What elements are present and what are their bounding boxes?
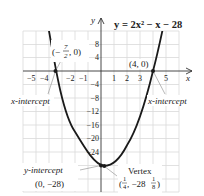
equation-label: y = 2x² − x − 28	[114, 19, 182, 30]
x-intercept-right-label: x-intercept	[147, 96, 187, 106]
svg-text:1: 1	[123, 175, 126, 182]
svg-text:8: 8	[152, 183, 155, 190]
y-intercept-label: y-intercept	[23, 165, 63, 175]
x-tick: −2	[66, 74, 75, 83]
x-tick: 5	[164, 74, 168, 83]
svg-text:(−: (−	[52, 47, 60, 57]
x-intercept-left-label: x-intercept	[10, 96, 50, 106]
x-intercept-right-point	[151, 69, 155, 73]
x-axis-label: x	[185, 73, 190, 83]
y-intercept-coord: (0, −28)	[35, 179, 64, 189]
parabola-chart: x y −5 −4 −2 −1 1 2 3 5 8 4 −4 −8 −12 −1…	[0, 0, 204, 196]
svg-text:2: 2	[64, 52, 68, 60]
x-tick: 2	[125, 74, 129, 83]
y-tick: −8	[90, 94, 99, 103]
x-tick: −4	[40, 74, 49, 83]
y-tick: −12	[86, 107, 99, 116]
y-tick: 4	[95, 53, 99, 62]
svg-text:1: 1	[152, 175, 155, 182]
x-tick: 3	[138, 74, 142, 83]
vertex-label: Vertex	[128, 166, 152, 176]
x-tick: −5	[27, 74, 36, 83]
svg-text:): )	[157, 179, 160, 189]
x-tick: −1	[79, 74, 88, 83]
x-intercept-left-coord: (− 7 2 , 0)	[51, 40, 89, 62]
vertex-annotation: Vertex ( 1 4 , −28 1 8 )	[118, 164, 162, 194]
svg-text:, 0): , 0)	[69, 47, 81, 57]
x-tick: 1	[112, 74, 116, 83]
x-intercept-left-point	[54, 69, 58, 73]
y-tick: −16	[86, 121, 99, 130]
svg-text:7: 7	[64, 43, 68, 51]
y-tick: −20	[86, 134, 99, 143]
y-tick: −4	[90, 80, 99, 89]
svg-text:, −28: , −28	[127, 179, 146, 189]
x-intercept-right-coord: (4, 0)	[129, 59, 149, 69]
y-tick: 8	[95, 40, 99, 49]
svg-text:(: (	[119, 179, 122, 189]
y-axis-label: y	[90, 15, 95, 25]
vertex-point	[102, 164, 106, 168]
